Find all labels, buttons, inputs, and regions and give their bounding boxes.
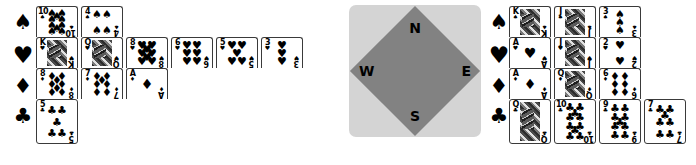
card-corner-index: A♦	[128, 70, 137, 82]
card-corner-index: 6♥	[173, 39, 182, 51]
card-corner-index: 5♥	[247, 55, 256, 67]
club-icon: ♣	[10, 106, 36, 127]
hearts-icon: ♥	[277, 55, 287, 66]
clubs-icon: ♣	[575, 130, 585, 141]
card-corner-index: 2♥	[601, 39, 610, 51]
hearts-icon: ♥	[615, 55, 625, 66]
suit-legend-west: ♠ ♥ ♦ ♣	[10, 0, 36, 165]
spades-icon: ♠	[92, 9, 102, 20]
card-pips: ♦♦♦♦♦♦	[610, 71, 630, 97]
card-corner-index: 7♦	[83, 70, 92, 82]
card-corner-index: 3♠	[630, 24, 639, 36]
hearts-icon: ♥	[192, 55, 202, 66]
diamonds-icon: ♦	[112, 86, 121, 92]
playing-card: 10♣10♣♣♣♣♣♣♣♣♣♣♣	[554, 99, 596, 144]
card-corner-index: Q♦	[585, 86, 594, 98]
card-corner-index: 8♦	[38, 70, 47, 82]
clubs-icon: ♣	[47, 104, 57, 115]
compass-north-label: N	[409, 21, 421, 35]
card-corner-index: Q♦	[556, 70, 565, 82]
spades-icon: ♠	[102, 9, 112, 20]
diamonds-icon: ♦	[67, 86, 76, 92]
diamonds-icon: ♦	[157, 86, 166, 92]
spades-icon: ♠	[57, 26, 67, 37]
hearts-icon: ♥	[128, 45, 137, 51]
spades-icon: ♠	[102, 24, 112, 35]
card-pips: ♠♠♠♠♠♠♠♠♠♠	[47, 9, 67, 35]
clubs-icon: ♣	[675, 130, 684, 136]
bridge-hand-diagram: ♠ ♥ ♦ ♣ 10♠10♠♠♠♠♠♠♠♠♠♠♠4♠4♠♠♠♠♠K♥K♥Q♥Q♥…	[0, 0, 696, 165]
diamonds-icon: ♦	[585, 86, 594, 92]
suit-row-diamonds: 8♦8♦♦♦♦♦♦♦♦♦7♦7♦♦♦♦♦♦♦♦A♦A♦♦	[36, 68, 171, 100]
diamonds-icon: ♦	[524, 77, 537, 91]
compass-rose: N W E S	[349, 5, 481, 137]
playing-card: 2♥2♥♥♥	[599, 37, 641, 68]
spades-icon: ♠	[540, 24, 549, 30]
card-corner-index: 8♥	[128, 39, 137, 51]
suit-row-hearts: A♥A♥♥J♥J♥2♥2♥♥♥	[509, 37, 644, 69]
card-corner-index: 3♥	[263, 39, 272, 51]
card-corner-index: A♥	[540, 55, 549, 67]
card-corner-index: Q♥	[83, 39, 92, 51]
spades-icon: ♠	[630, 24, 639, 30]
court-card-portrait	[92, 40, 112, 66]
card-pips: ♥♥♥	[272, 40, 292, 66]
card-pips: ♣♣♣♣♣♣♣	[655, 102, 675, 141]
spades-icon: ♠	[556, 14, 565, 20]
hearts-icon: ♥	[601, 45, 610, 51]
playing-card: A♦A♦♦	[126, 68, 168, 99]
playing-card: A♥A♥♥	[509, 37, 551, 68]
clubs-icon: ♣	[565, 130, 575, 141]
compass-east-label: E	[461, 64, 471, 78]
hearts-icon: ♥	[218, 45, 227, 51]
hearts-icon: ♥	[511, 45, 520, 51]
diamonds-icon: ♦	[511, 76, 520, 82]
clubs-icon: ♣	[57, 104, 67, 115]
hearts-icon: ♥	[630, 55, 639, 61]
playing-card: Q♣Q♣	[509, 99, 551, 144]
card-pips: ♦♦♦♦♦♦♦♦	[47, 71, 67, 97]
card-corner-index: 5♣	[38, 101, 47, 113]
hearts-icon: ♥	[540, 55, 549, 61]
playing-card: J♠J♠	[554, 6, 596, 37]
diamonds-icon: ♦	[38, 76, 47, 82]
clubs-icon: ♣	[57, 128, 67, 139]
hearts-icon: ♥	[67, 55, 76, 61]
spades-icon: ♠	[92, 24, 102, 35]
card-corner-index: 4♠	[112, 24, 121, 36]
hearts-icon: ♥	[147, 56, 157, 67]
playing-card: 10♠10♠♠♠♠♠♠♠♠♠♠♠	[36, 6, 78, 37]
playing-card: Q♦Q♦	[554, 68, 596, 99]
card-corner-index: K♠	[511, 8, 520, 20]
card-corner-index: 6♥	[202, 55, 211, 67]
card-pips: ♦	[520, 71, 540, 97]
playing-card: 5♣5♣♣♣♣♣♣	[36, 99, 78, 144]
card-corner-index: 3♠	[601, 8, 610, 20]
clubs-icon: ♣	[620, 129, 630, 140]
clubs-icon: ♣	[630, 130, 639, 136]
hearts-icon: ♥	[182, 55, 192, 66]
clubs-icon: ♣	[47, 128, 57, 139]
card-corner-index: J♥	[556, 39, 565, 51]
card-corner-index: A♥	[511, 39, 520, 51]
card-corner-index: 3♥	[292, 55, 301, 67]
card-corner-index: 9♣	[601, 101, 610, 113]
hearts-icon: ♥	[292, 55, 301, 61]
card-pips: ♥♥	[610, 40, 630, 66]
card-pips: ♥♥♥♥♥	[227, 40, 247, 66]
hearts-icon: ♥	[524, 46, 537, 60]
suit-row-clubs: Q♣Q♣10♣10♣♣♣♣♣♣♣♣♣♣♣9♣9♣♣♣♣♣♣♣♣♣♣7♣7♣♣♣♣…	[509, 99, 689, 145]
card-pips: ♣♣♣♣♣♣♣♣♣	[610, 102, 630, 141]
heart-icon: ♥	[10, 44, 36, 67]
hearts-icon: ♥	[556, 45, 565, 51]
card-corner-index: 10♣	[556, 101, 565, 113]
card-pips: ♥♥♥♥♥♥♥♥	[137, 40, 157, 66]
hearts-icon: ♥	[157, 55, 166, 61]
card-corner-index: 7♣	[646, 101, 655, 113]
playing-card: 8♦8♦♦♦♦♦♦♦♦♦	[36, 68, 78, 99]
card-corner-index: 9♣	[630, 130, 639, 142]
card-corner-index: 2♥	[630, 55, 639, 67]
compass-south-label: S	[410, 109, 420, 123]
clubs-icon: ♣	[52, 116, 62, 127]
court-card-portrait	[47, 40, 67, 66]
